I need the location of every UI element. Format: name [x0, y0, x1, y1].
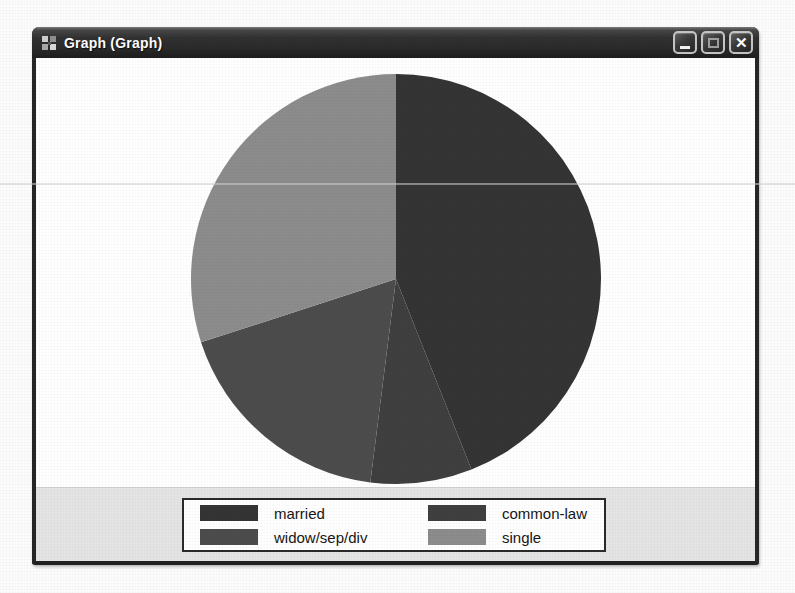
legend-item-common-law: common-law [412, 505, 604, 522]
pie-chart [190, 73, 602, 485]
legend-label-married: married [274, 505, 325, 522]
window-title: Graph (Graph) [64, 35, 669, 51]
minimize-button[interactable] [673, 31, 697, 54]
legend-item-married: married [184, 505, 412, 522]
legend-item-widow-sep-div: widow/sep/div [184, 529, 412, 546]
maximize-icon [708, 38, 719, 48]
maximize-button[interactable] [701, 31, 725, 54]
legend-swatch-married [200, 505, 258, 521]
graph-window: Graph (Graph) ✕ married common- [32, 27, 759, 565]
legend-swatch-single [428, 529, 486, 545]
window-controls: ✕ [669, 31, 753, 54]
legend-item-single: single [412, 529, 604, 546]
chart-plot-area [36, 58, 755, 487]
legend-label-widow-sep-div: widow/sep/div [274, 529, 367, 546]
chart-legend: married common-law widow/sep/div single [182, 498, 606, 552]
close-button[interactable]: ✕ [729, 31, 753, 54]
legend-label-common-law: common-law [502, 505, 587, 522]
close-icon: ✕ [735, 35, 748, 50]
legend-label-single: single [502, 529, 541, 546]
legend-swatch-common-law [428, 505, 486, 521]
legend-swatch-widow-sep-div [200, 529, 258, 545]
minimize-icon [680, 46, 690, 49]
graph-app-icon [41, 35, 58, 51]
title-bar[interactable]: Graph (Graph) ✕ [32, 27, 759, 58]
chart-client-area: married common-law widow/sep/div single [36, 58, 755, 561]
